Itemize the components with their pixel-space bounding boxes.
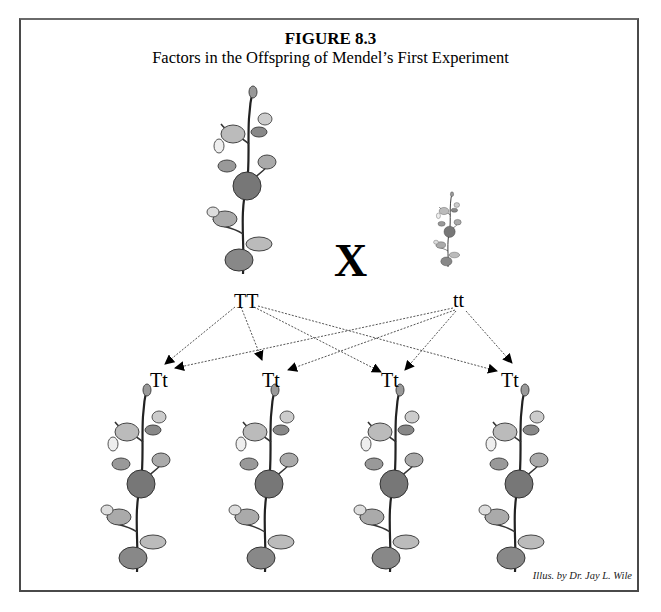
offspring-plant-1 [101, 384, 170, 572]
offspring-plant-3 [354, 384, 423, 572]
genotype-offspring-1: Tt [150, 369, 168, 392]
inheritance-arrows [165, 306, 512, 372]
cross-symbol: X [334, 234, 367, 287]
genotype-short-parent: tt [453, 289, 464, 312]
genotype-offspring-2: Tt [262, 369, 280, 392]
genotype-offspring-3: Tt [381, 369, 399, 392]
genotype-tall-parent: TT [234, 290, 258, 313]
offspring-plant-2 [229, 384, 298, 572]
offspring-plant-4 [479, 384, 548, 572]
short-parent-plant [434, 192, 462, 267]
genotype-offspring-4: Tt [501, 369, 519, 392]
tall-parent-plant [207, 86, 276, 274]
diagram-graphics [0, 0, 661, 612]
illustration-credit: Illus. by Dr. Jay L. Wile [533, 570, 632, 581]
